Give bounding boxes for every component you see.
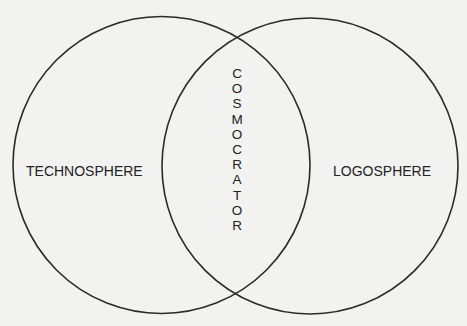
letter: S [229,96,245,111]
letter: O [229,203,245,218]
letter: R [229,157,245,172]
logosphere-label: LOGOSPHERE [333,163,431,179]
technosphere-label: TECHNOSPHERE [26,163,143,179]
letter: O [229,81,245,96]
letter: O [229,127,245,142]
letter: T [229,188,245,203]
letter: M [229,112,245,127]
letter: R [229,218,245,233]
letter: C [229,66,245,81]
letter: A [229,172,245,187]
cosmocrator-label: C O S M O C R A T O R [229,66,245,233]
letter: C [229,142,245,157]
